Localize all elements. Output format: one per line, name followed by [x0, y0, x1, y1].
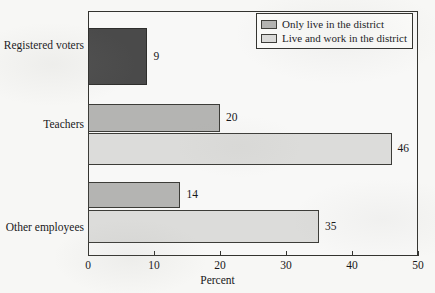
x-axis-tick-mark [220, 251, 221, 256]
x-axis-tick-label: 0 [85, 260, 91, 272]
bar-value-label: 35 [325, 221, 337, 233]
x-axis-tick-label: 30 [280, 260, 292, 272]
bar [88, 28, 147, 85]
bar [88, 182, 180, 208]
category-label: Registered voters [4, 40, 84, 52]
bar [88, 133, 392, 165]
chart-legend: Only live in the districtLive and work i… [256, 13, 413, 49]
legend-swatch [261, 34, 277, 43]
bar [88, 104, 220, 132]
category-label: Teachers [43, 119, 84, 131]
bar-value-label: 9 [153, 51, 159, 63]
x-axis-tick-label: 50 [412, 260, 424, 272]
bar [88, 210, 319, 243]
x-axis-tick-mark [154, 251, 155, 256]
x-axis-tick-mark [352, 251, 353, 256]
x-axis-tick-mark [88, 251, 89, 256]
x-axis-tick-mark [418, 251, 419, 256]
x-axis-title: Percent [0, 275, 435, 287]
bar-value-label: 46 [398, 143, 410, 155]
category-label: Other employees [6, 222, 84, 234]
bar-value-label: 20 [226, 112, 238, 124]
x-axis-tick-label: 20 [214, 260, 226, 272]
x-axis-tick-mark [286, 251, 287, 256]
legend-item: Only live in the district [261, 17, 407, 31]
bar-value-label: 14 [186, 189, 198, 201]
legend-item: Live and work in the district [261, 31, 407, 45]
bar-chart: 920461435 Registered votersTeachersOther… [0, 0, 435, 293]
legend-label: Live and work in the district [282, 33, 407, 44]
x-axis-tick-label: 40 [346, 260, 358, 272]
legend-swatch [261, 20, 277, 29]
legend-label: Only live in the district [282, 19, 384, 30]
x-axis-tick-label: 10 [148, 260, 160, 272]
